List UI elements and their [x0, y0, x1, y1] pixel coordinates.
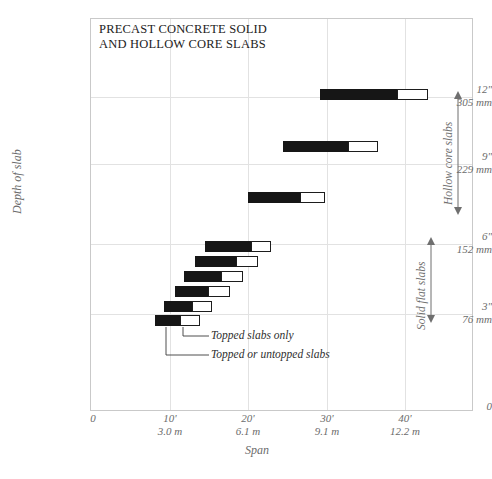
- bar-segment-topped-only: [180, 315, 200, 326]
- bar-4-5in-solid-flat[interactable]: [175, 286, 230, 297]
- gridline-x-40: [405, 19, 406, 410]
- bar-segment-topped-only: [192, 301, 212, 312]
- y-tick-6in: 6" 152 mm: [406, 230, 492, 256]
- bar-8in-hollow-core[interactable]: [248, 192, 325, 203]
- bar-segment-topped-only: [208, 286, 230, 297]
- bar-segment-topped-or-untopped: [175, 286, 208, 297]
- bar-4in-solid-flat[interactable]: [164, 301, 212, 312]
- x-tick-10ft: 10' 3.0 m: [135, 412, 205, 438]
- bar-6in-solid-flat[interactable]: [205, 241, 271, 252]
- x-tick-30ft: 30' 9.1 m: [292, 412, 362, 438]
- bar-segment-topped-only: [348, 141, 378, 152]
- bar-segment-topped-or-untopped: [283, 141, 348, 152]
- bar-segment-topped-or-untopped: [248, 192, 300, 203]
- callout-topped-slabs-only: Topped slabs only: [211, 329, 294, 341]
- bar-segment-topped-only: [221, 271, 243, 282]
- bar-5-5in-solid-flat[interactable]: [195, 256, 258, 267]
- x-tick-40ft: 40' 12.2 m: [370, 412, 440, 438]
- bar-segment-topped-or-untopped: [320, 89, 397, 100]
- chart-title-line-1: PRECAST CONCRETE SOLID: [99, 22, 329, 37]
- gridline-x-10: [170, 19, 171, 410]
- bar-segment-topped-only: [300, 192, 325, 203]
- chart-title: PRECAST CONCRETE SOLID AND HOLLOW CORE S…: [99, 22, 329, 52]
- group-label-solid-flat-slabs: Solid flat slabs: [415, 262, 427, 330]
- bar-segment-topped-or-untopped: [205, 241, 251, 252]
- bar-segment-topped-or-untopped: [164, 301, 192, 312]
- y-tick-12in: 12" 305 mm: [406, 83, 492, 109]
- bar-10in-hollow-core[interactable]: [283, 141, 378, 152]
- precast-slab-span-chart: PRECAST CONCRETE SOLID AND HOLLOW CORE S…: [0, 0, 492, 479]
- x-tick-20ft: 20' 6.1 m: [213, 412, 283, 438]
- callout-topped-or-untopped-slabs: Topped or untopped slabs: [211, 348, 330, 360]
- group-label-hollow-core-slabs: Hollow core slabs: [442, 122, 454, 205]
- bar-segment-topped-or-untopped: [195, 256, 236, 267]
- bar-segment-topped-only: [236, 256, 258, 267]
- bar-5in-solid-flat[interactable]: [184, 271, 243, 282]
- bar-3in-solid-flat[interactable]: [155, 315, 200, 326]
- chart-title-line-2: AND HOLLOW CORE SLABS: [99, 37, 329, 52]
- bar-segment-topped-or-untopped: [155, 315, 180, 326]
- x-axis-title: Span: [245, 443, 269, 458]
- bar-segment-topped-or-untopped: [184, 271, 221, 282]
- x-tick-0: 0: [58, 412, 128, 425]
- y-axis-title: Depth of slab: [10, 149, 25, 214]
- bar-segment-topped-only: [251, 241, 271, 252]
